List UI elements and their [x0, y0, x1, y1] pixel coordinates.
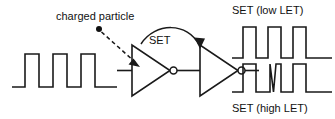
set-low-let-waveform [232, 27, 332, 58]
inverter-gate-2 [200, 45, 259, 96]
inversion-bubble-2 [238, 67, 245, 74]
set-arc-label: SET [149, 34, 171, 46]
particle-dot-icon [96, 26, 102, 32]
dashed-strike-arrow-line [102, 32, 136, 62]
figure-container: SET charged particle SET (low LET) SET (… [0, 0, 335, 119]
set-propagation-diagram: SET charged particle SET (low LET) SET (… [0, 0, 335, 119]
inverter-gate-1 [117, 45, 200, 96]
inverter-2-triangle [200, 45, 238, 96]
input-clock-waveform [12, 54, 117, 87]
charged-particle-label: charged particle [56, 10, 134, 22]
inverter-1-triangle [132, 45, 170, 96]
set-high-let-label: SET (high LET) [232, 102, 308, 114]
inversion-bubble-1 [170, 67, 177, 74]
set-low-let-label: SET (low LET) [232, 4, 303, 16]
set-high-let-waveform [232, 64, 332, 92]
